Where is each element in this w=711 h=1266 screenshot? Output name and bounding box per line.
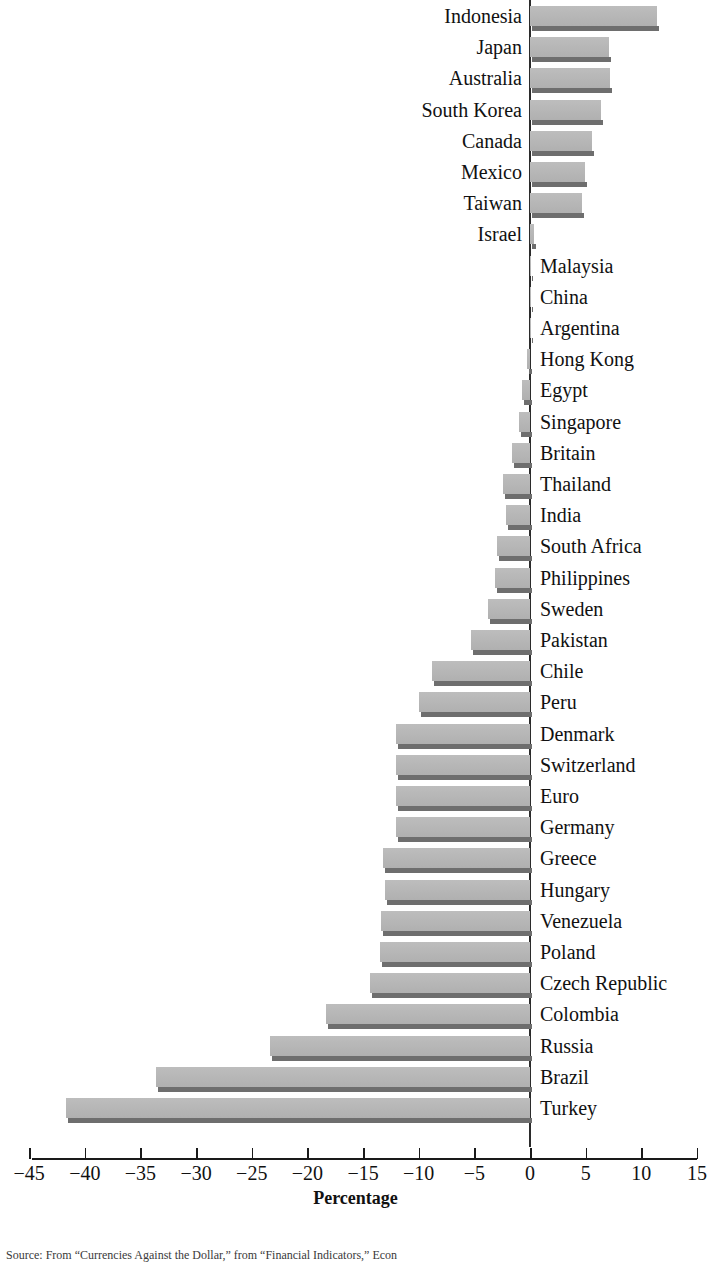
source-note: Source: From “Currencies Against the Dol… [6,1248,706,1263]
bar-shadow [532,26,659,31]
x-axis-tick-label: 15 [667,1161,711,1185]
bar-shadow [421,712,532,717]
bar-shadow [514,463,532,468]
category-label: Peru [540,687,711,717]
bar [530,6,657,26]
category-label: Indonesia [0,1,522,31]
category-label: Venezuela [540,906,711,936]
bar [432,661,530,681]
bar-row: Singapore [0,408,711,442]
bar [326,1004,530,1024]
bar-row: Brazil [0,1063,711,1097]
category-label: India [540,500,711,530]
x-axis-tick-label: −25 [222,1161,282,1185]
bar-row: Egypt [0,376,711,410]
x-axis-tick-label: −10 [389,1161,449,1185]
x-axis-tick [196,1148,198,1159]
x-axis-tick-label: −5 [444,1161,504,1185]
bar [530,37,609,57]
bar-row: South Korea [0,96,711,130]
x-axis-tick-label: 10 [611,1161,671,1185]
x-axis-tick [474,1148,476,1159]
x-axis-tick-label: −40 [55,1161,115,1185]
bar [522,380,530,400]
bar-row: Thailand [0,470,711,504]
bar-shadow [398,775,532,780]
x-axis-tick-label: −30 [166,1161,226,1185]
bar [396,755,530,775]
bar-shadow [68,1118,532,1123]
bar [383,848,530,868]
bar-shadow [505,494,532,499]
bar-row: South Africa [0,532,711,566]
category-label: Egypt [540,375,711,405]
x-axis-tick [641,1148,643,1159]
bar-shadow [532,120,603,125]
bar [530,68,610,88]
category-label: Czech Republic [540,968,711,998]
category-label: Greece [540,843,711,873]
category-label: Switzerland [540,750,711,780]
category-label: Turkey [540,1093,711,1123]
category-label: Britain [540,438,711,468]
x-axis-tick [363,1148,365,1159]
x-axis-title: Percentage [0,1188,711,1209]
bar-row: China [0,283,711,317]
bar-row: Turkey [0,1094,711,1128]
category-label: Malaysia [540,251,711,281]
bar [381,911,530,931]
bar-shadow [532,57,611,62]
x-axis-tick-label: −20 [277,1161,337,1185]
bar-row: Indonesia [0,2,711,36]
bar [396,724,530,744]
bar [530,256,531,276]
bar [527,349,530,369]
bar [530,162,585,182]
bar-row: Israel [0,220,711,254]
category-label: Thailand [540,469,711,499]
bar [530,193,582,213]
category-label: Germany [540,812,711,842]
bar [503,474,530,494]
bar-row: Japan [0,33,711,67]
bar-row: Taiwan [0,189,711,223]
bar-shadow [532,276,533,281]
bar-shadow [434,681,532,686]
bar [66,1098,530,1118]
bar [512,443,530,463]
bar-shadow [398,837,532,842]
bar-row: Malaysia [0,252,711,286]
category-label: Denmark [540,719,711,749]
x-axis-tick-label: −45 [0,1161,59,1185]
x-axis-tick [530,1148,532,1159]
bar-shadow [490,619,532,624]
bar-shadow [497,588,532,593]
bar-row: Poland [0,938,711,972]
x-axis-tick [307,1148,309,1159]
bar-shadow [387,900,532,905]
bar-row: Hong Kong [0,345,711,379]
category-label: Euro [540,781,711,811]
x-axis-tick [586,1148,588,1159]
bar-row: Greece [0,844,711,878]
x-axis-tick [140,1148,142,1159]
category-label: Russia [540,1031,711,1061]
bar [385,880,530,900]
category-label: South Africa [540,531,711,561]
bar-shadow [532,338,533,343]
bar [396,817,530,837]
category-label: Brazil [540,1062,711,1092]
x-axis-tick [419,1148,421,1159]
category-label: Israel [0,219,522,249]
bar-row: Germany [0,813,711,847]
bar-shadow [272,1056,532,1061]
bar-shadow [532,182,587,187]
bar-row: Denmark [0,720,711,754]
bar [506,505,530,525]
category-label: Poland [540,937,711,967]
bar [156,1067,530,1087]
bar-shadow [158,1087,532,1092]
category-label: Japan [0,32,522,62]
bar [497,536,530,556]
category-label: Hong Kong [540,344,711,374]
